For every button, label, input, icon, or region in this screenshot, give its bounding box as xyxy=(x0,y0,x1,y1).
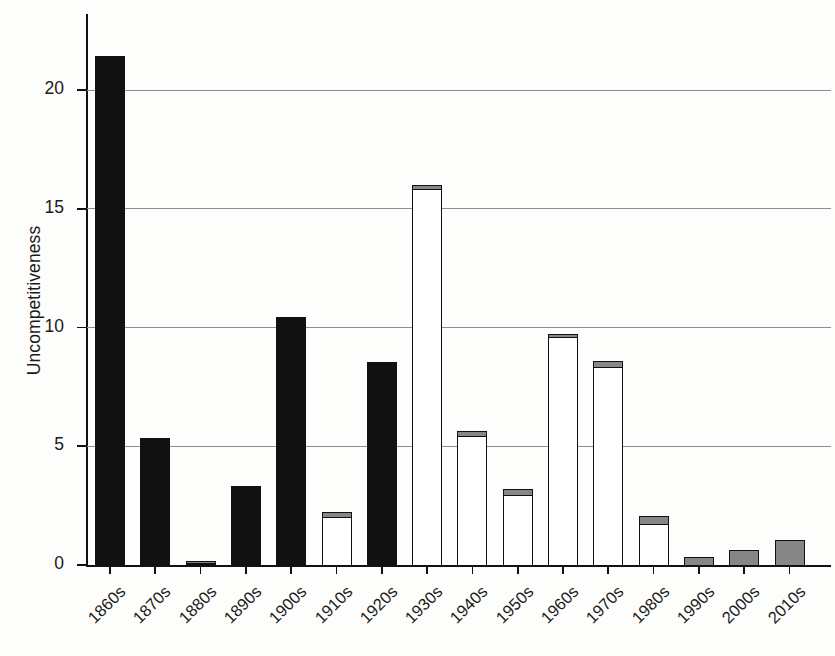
bar xyxy=(729,550,759,565)
x-axis-tick xyxy=(336,565,338,574)
y-axis-tick: 5 xyxy=(77,445,86,447)
bar xyxy=(276,317,306,565)
bar-segment-main xyxy=(276,317,306,566)
x-axis-tick-label: 1890s xyxy=(215,582,265,632)
x-axis-tick xyxy=(472,565,474,574)
y-axis-line xyxy=(86,14,88,567)
bar-segment-main xyxy=(593,367,623,567)
x-axis-tick-label: 1860s xyxy=(79,582,129,632)
x-axis-tick xyxy=(562,565,564,574)
bar-segment-main xyxy=(639,524,669,567)
y-axis-tick: 15 xyxy=(77,208,86,210)
bar xyxy=(231,486,261,565)
x-axis-tick xyxy=(743,565,745,574)
x-axis-tick-label: 1970s xyxy=(578,582,628,632)
bar xyxy=(684,557,714,565)
bar-segment-main xyxy=(367,362,397,566)
bar-segment-main xyxy=(457,436,487,567)
x-axis-tick-label: 1910s xyxy=(306,582,356,632)
bar xyxy=(322,512,352,565)
bar-segment-main xyxy=(322,517,352,567)
gridline xyxy=(87,208,831,209)
x-axis-tick-label: 2000s xyxy=(713,582,763,632)
gridline xyxy=(87,327,831,328)
x-axis-tick xyxy=(517,565,519,574)
bar-segment-main xyxy=(231,486,261,567)
x-axis-tick xyxy=(245,565,247,574)
bar xyxy=(593,361,623,565)
bar xyxy=(457,431,487,565)
bar-segment-main xyxy=(503,495,533,566)
x-axis-tick xyxy=(698,565,700,574)
bar-segment-main xyxy=(775,540,805,566)
x-axis-tick-label: 1900s xyxy=(260,582,310,632)
x-axis-tick xyxy=(381,565,383,574)
x-axis-tick xyxy=(426,565,428,574)
bar xyxy=(548,334,578,565)
bar xyxy=(95,56,125,565)
x-axis-tick-label: 1940s xyxy=(442,582,492,632)
bar xyxy=(140,438,170,565)
bar xyxy=(775,540,805,565)
x-axis-tick xyxy=(109,565,111,574)
x-axis-tick xyxy=(154,565,156,574)
x-axis-tick-label: 1920s xyxy=(351,582,401,632)
x-axis-tick-label: 1990s xyxy=(668,582,718,632)
x-axis-tick-label: 1980s xyxy=(623,582,673,632)
bar-segment-main xyxy=(140,438,170,566)
bar-segment-main xyxy=(548,337,578,566)
gridline xyxy=(87,90,831,91)
y-axis-tick-label: 20 xyxy=(45,78,64,99)
y-axis-tick-label: 5 xyxy=(54,434,64,455)
y-axis-title: Uncompetitiveness xyxy=(24,171,45,431)
bar-segment-main xyxy=(729,550,759,567)
y-axis-tick: 10 xyxy=(77,327,86,329)
y-axis-tick-label: 0 xyxy=(54,553,64,574)
x-axis-tick-label: 1960s xyxy=(532,582,582,632)
bar xyxy=(639,516,669,565)
bar xyxy=(367,362,397,565)
bar xyxy=(503,489,533,565)
bar-segment-main xyxy=(412,189,442,567)
x-axis-tick xyxy=(653,565,655,574)
bar-segment-main xyxy=(95,56,125,567)
plot-area: 05101520 xyxy=(86,14,831,567)
x-axis-tick-label: 1950s xyxy=(487,582,537,632)
x-axis-tick xyxy=(607,565,609,574)
bar-chart-figure: Uncompetitiveness 05101520 1860s1870s188… xyxy=(0,0,835,656)
x-axis-tick-label: 1870s xyxy=(125,582,175,632)
bar xyxy=(412,185,442,565)
x-axis-tick xyxy=(290,565,292,574)
x-axis-tick-label: 1880s xyxy=(170,582,220,632)
y-axis-tick: 0 xyxy=(77,564,86,566)
y-axis-tick-label: 10 xyxy=(45,316,64,337)
x-axis-tick-label: 1930s xyxy=(396,582,446,632)
y-axis-tick-label: 15 xyxy=(45,197,64,218)
x-axis-tick xyxy=(789,565,791,574)
x-axis-tick xyxy=(200,565,202,574)
y-axis-tick: 20 xyxy=(77,89,86,91)
x-axis-tick-label: 2010s xyxy=(759,582,809,632)
